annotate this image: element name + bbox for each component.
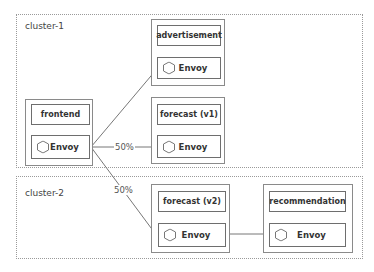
envoy-label: Envoy — [159, 230, 225, 240]
envoy-recommendation[interactable]: Envoy — [269, 223, 346, 247]
envoy-advertisement[interactable]: Envoy — [157, 57, 221, 79]
service-frontend[interactable]: frontend — [31, 104, 90, 125]
envoy-label: Envoy — [270, 230, 345, 240]
edge-label-forecast-v1: 50% — [114, 142, 135, 152]
edge-frontend-advertisement — [91, 70, 156, 147]
envoy-label: Envoy — [32, 142, 89, 152]
service-recommendation[interactable]: recommendation — [269, 191, 346, 212]
edge-label-forecast-v2: 50% — [113, 185, 134, 195]
envoy-forecast-v2[interactable]: Envoy — [158, 223, 226, 247]
envoy-label: Envoy — [158, 63, 220, 73]
envoy-frontend[interactable]: Envoy — [31, 135, 90, 159]
service-forecast-v1[interactable]: forecast (v1) — [157, 104, 221, 125]
envoy-forecast-v1[interactable]: Envoy — [157, 135, 221, 158]
service-forecast-v2[interactable]: forecast (v2) — [158, 191, 226, 212]
service-advertisement[interactable]: advertisement — [157, 25, 221, 46]
envoy-label: Envoy — [158, 142, 220, 152]
